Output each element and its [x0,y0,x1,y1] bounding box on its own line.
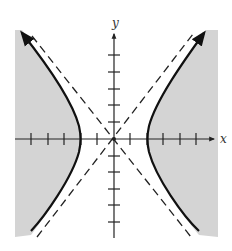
shaded-region-right [148,30,219,237]
y-axis-label: y [111,16,119,30]
origin-point [112,137,116,141]
hyperbola-graph: x y [0,0,232,251]
x-axis-label: x [220,132,227,146]
